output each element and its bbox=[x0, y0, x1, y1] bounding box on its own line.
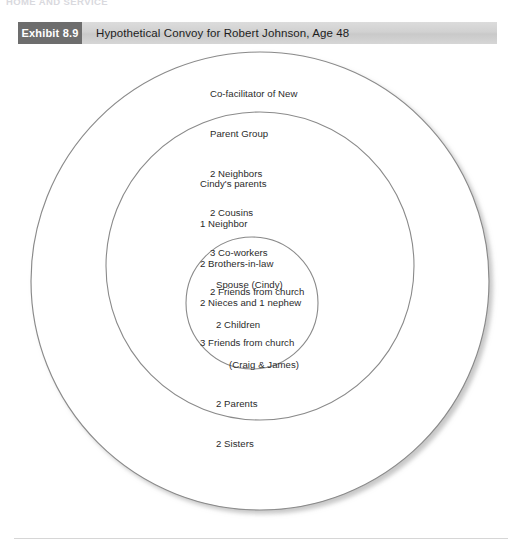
outer-ring-line: Co-facilitator of New bbox=[210, 87, 304, 100]
inner-ring-line: 2 Children bbox=[216, 318, 299, 331]
inner-ring-line: 2 Parents bbox=[216, 397, 299, 410]
inner-ring-label-group: Spouse (Cindy) 2 Children (Craig & James… bbox=[216, 252, 299, 476]
inner-ring-line: (Craig & James) bbox=[216, 358, 299, 371]
inner-ring-line: Spouse (Cindy) bbox=[216, 278, 299, 291]
outer-ring-line: Parent Group bbox=[210, 127, 304, 140]
exhibit-number-tag: Exhibit 8.9 bbox=[18, 22, 82, 44]
page-footer-rule bbox=[14, 538, 508, 539]
exhibit-title: Hypothetical Convoy for Robert Johnson, … bbox=[82, 22, 349, 44]
middle-ring-line: Cindy's parents bbox=[200, 177, 301, 190]
middle-ring-line: 1 Neighbor bbox=[200, 217, 301, 230]
inner-ring-line: 2 Sisters bbox=[216, 437, 299, 450]
convoy-diagram: Co-facilitator of New Parent Group 2 Nei… bbox=[0, 0, 522, 530]
